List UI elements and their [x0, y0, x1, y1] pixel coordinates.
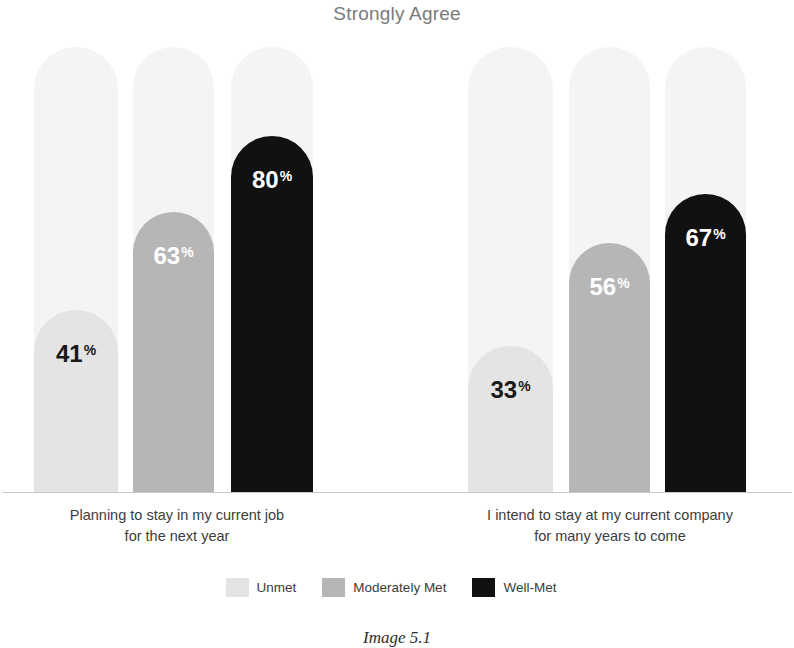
legend-item-moderately-met[interactable]: Moderately Met: [322, 578, 446, 597]
legend-label: Moderately Met: [353, 580, 446, 595]
bar-fill: [468, 346, 553, 493]
legend-label: Well-Met: [503, 580, 556, 595]
category-label-line: for many years to come: [450, 526, 770, 547]
legend-swatch-icon: [322, 578, 345, 597]
x-axis-line: [2, 492, 792, 493]
legend-swatch-icon: [472, 578, 495, 597]
bar-value-label: 67%: [665, 226, 746, 250]
category-label-1: I intend to stay at my current company f…: [450, 505, 770, 547]
bar-moderately-met-group-1[interactable]: 56%: [569, 47, 650, 493]
legend-item-unmet[interactable]: Unmet: [226, 578, 297, 597]
legend-swatch-icon: [226, 578, 249, 597]
bar-value-label: 63%: [133, 244, 214, 268]
legend-item-well-met[interactable]: Well-Met: [472, 578, 556, 597]
category-label-0: Planning to stay in my current job for t…: [22, 505, 332, 547]
bar-unmet-group-1[interactable]: 33%: [468, 47, 553, 493]
legend-label: Unmet: [257, 580, 297, 595]
bar-well-met-group-0[interactable]: 80%: [231, 47, 313, 493]
bar-fill: [34, 310, 118, 493]
bar-value-label: 41%: [34, 342, 118, 366]
figure: Strongly Agree 41% 63% 80%: [0, 0, 794, 648]
legend: Unmet Moderately Met Well-Met: [0, 578, 794, 597]
category-label-line: for the next year: [22, 526, 332, 547]
bar-well-met-group-1[interactable]: 67%: [665, 47, 746, 493]
plot-area: 41% 63% 80% 33% 56%: [0, 0, 794, 494]
bar-unmet-group-0[interactable]: 41%: [34, 47, 118, 493]
category-label-line: I intend to stay at my current company: [450, 505, 770, 526]
bar-moderately-met-group-0[interactable]: 63%: [133, 47, 214, 493]
bar-value-label: 33%: [468, 378, 553, 402]
bar-group-0: 41% 63% 80%: [34, 47, 316, 493]
bar-group-1: 33% 56% 67%: [468, 47, 748, 493]
figure-caption: Image 5.1: [0, 628, 794, 648]
bar-value-label: 80%: [231, 168, 313, 192]
bar-value-label: 56%: [569, 275, 650, 299]
category-label-line: Planning to stay in my current job: [22, 505, 332, 526]
